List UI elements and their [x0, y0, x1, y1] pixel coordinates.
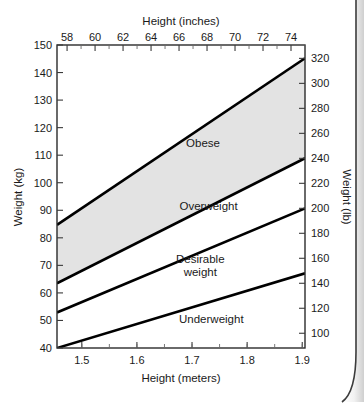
top-tick-label: 72 — [257, 31, 269, 43]
zone-label-underweight: Underweight — [179, 313, 244, 325]
left-tick-label: 140 — [34, 67, 52, 79]
right-tick-label: 220 — [311, 177, 329, 189]
right-tick-label: 300 — [311, 77, 329, 89]
right-tick-label: 280 — [311, 102, 329, 114]
top-axis-title: Height (inches) — [142, 15, 220, 27]
left-tick-label: 100 — [34, 177, 52, 189]
zone-label-desirable-line1: Desirable — [176, 253, 225, 265]
left-tick-label: 80 — [40, 232, 52, 244]
right-tick-label: 120 — [311, 302, 329, 314]
zone-label-desirable-line2: weight — [183, 266, 218, 278]
left-tick-label: 40 — [40, 342, 52, 354]
right-tick-label: 200 — [311, 202, 329, 214]
right-tick-label: 180 — [311, 227, 329, 239]
right-tick-label: 160 — [311, 252, 329, 264]
left-tick-label: 120 — [34, 122, 52, 134]
left-tick-label: 60 — [40, 287, 52, 299]
top-tick-label: 62 — [117, 31, 129, 43]
top-tick-label: 66 — [173, 31, 185, 43]
right-axis-tick-labels: 100120140160180200220240260280300320 — [311, 52, 329, 339]
right-tick-label: 240 — [311, 152, 329, 164]
left-axis-tick-labels: 405060708090100110120130140150 — [34, 39, 52, 354]
bottom-tick-label: 1.6 — [129, 354, 144, 366]
bottom-tick-label: 1.9 — [295, 354, 310, 366]
left-tick-label: 90 — [40, 204, 52, 216]
left-tick-label: 150 — [34, 39, 52, 51]
bottom-tick-label: 1.5 — [74, 354, 89, 366]
left-tick-label: 110 — [34, 149, 52, 161]
bottom-axis-title: Height (meters) — [141, 372, 220, 384]
top-tick-label: 58 — [61, 31, 73, 43]
left-tick-label: 50 — [40, 314, 52, 326]
zone-label-obese: Obese — [186, 137, 220, 149]
right-axis-title: Weight (lb) — [341, 169, 353, 225]
top-tick-label: 60 — [89, 31, 101, 43]
right-tick-label: 140 — [311, 277, 329, 289]
left-axis-title: Weight (kg) — [12, 168, 24, 227]
top-tick-label: 68 — [201, 31, 213, 43]
top-axis-tick-labels: 586062646668707274 — [61, 31, 297, 43]
top-tick-label: 74 — [285, 31, 297, 43]
left-tick-label: 70 — [40, 259, 52, 271]
bottom-tick-label: 1.8 — [239, 354, 254, 366]
top-tick-label: 64 — [145, 31, 157, 43]
zone-label-overweight: Overweight — [179, 200, 238, 212]
right-tick-label: 260 — [311, 127, 329, 139]
left-tick-label: 130 — [34, 94, 52, 106]
top-tick-label: 70 — [229, 31, 241, 43]
bmi-chart-svg: 405060708090100110120130140150 100120140… — [0, 0, 364, 403]
bottom-tick-label: 1.7 — [184, 354, 199, 366]
right-tick-label: 100 — [311, 327, 329, 339]
bottom-axis-tick-labels: 1.51.61.71.81.9 — [74, 354, 310, 366]
right-tick-label: 320 — [311, 52, 329, 64]
bmi-chart-figure: 405060708090100110120130140150 100120140… — [0, 0, 364, 403]
